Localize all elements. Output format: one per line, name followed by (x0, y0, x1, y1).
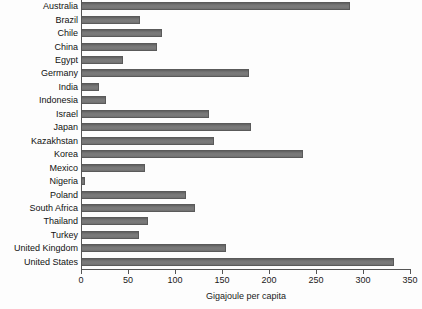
x-tick (175, 270, 176, 274)
bar-row: United States (0, 257, 422, 271)
bar-row: Egypt (0, 55, 422, 69)
category-label: Australia (0, 1, 78, 11)
bar (82, 110, 209, 118)
x-tick-label: 300 (355, 275, 370, 286)
x-tick (316, 270, 317, 274)
bar (82, 123, 251, 131)
bar-row: South Africa (0, 203, 422, 217)
category-label: Kazakhstan (0, 136, 78, 146)
x-tick-label: 150 (214, 275, 229, 286)
category-label: Turkey (0, 230, 78, 240)
category-label: South Africa (0, 203, 78, 213)
bar-row: Poland (0, 190, 422, 204)
bar-row: Israel (0, 109, 422, 123)
bar (82, 217, 148, 225)
category-label: Korea (0, 149, 78, 159)
bar (82, 83, 99, 91)
bar (82, 16, 140, 24)
category-label: United States (0, 257, 78, 267)
bar-row: Australia (0, 1, 422, 15)
category-label: Israel (0, 109, 78, 119)
bar (82, 29, 162, 37)
category-label: Brazil (0, 15, 78, 25)
bar-row: China (0, 42, 422, 56)
bar-row: Indonesia (0, 95, 422, 109)
bar (82, 69, 249, 77)
bar-row: Nigeria (0, 176, 422, 190)
category-label: Indonesia (0, 95, 78, 105)
category-label: Poland (0, 190, 78, 200)
category-label: China (0, 42, 78, 52)
bar (82, 177, 85, 185)
x-tick-label: 350 (402, 275, 417, 286)
bar (82, 137, 214, 145)
bar (82, 191, 186, 199)
x-tick-label: 50 (123, 275, 133, 286)
bar (82, 43, 157, 51)
bar (82, 164, 145, 172)
bar-row: Turkey (0, 230, 422, 244)
bar-row: Mexico (0, 163, 422, 177)
x-tick (222, 270, 223, 274)
category-label: Japan (0, 122, 78, 132)
bar-row: Korea (0, 149, 422, 163)
x-tick-label: 250 (308, 275, 323, 286)
bar-chart: AustraliaBrazilChileChinaEgyptGermanyInd… (0, 0, 422, 309)
bar (82, 2, 350, 10)
x-tick-label: 0 (78, 275, 83, 286)
x-tick (410, 270, 411, 274)
category-label: Egypt (0, 55, 78, 65)
category-label: Nigeria (0, 176, 78, 186)
category-label: Germany (0, 68, 78, 78)
category-label: Thailand (0, 216, 78, 226)
bar-row: Kazakhstan (0, 136, 422, 150)
bar-row: Thailand (0, 216, 422, 230)
x-tick (269, 270, 270, 274)
x-tick (128, 270, 129, 274)
bar (82, 96, 106, 104)
bar (82, 258, 394, 266)
bar-row: United Kingdom (0, 243, 422, 257)
x-tick-label: 100 (167, 275, 182, 286)
bar (82, 150, 303, 158)
category-label: Chile (0, 28, 78, 38)
bar-row: Japan (0, 122, 422, 136)
category-label: United Kingdom (0, 243, 78, 253)
bar-row: Chile (0, 28, 422, 42)
bar-row: Brazil (0, 15, 422, 29)
x-tick-label: 200 (261, 275, 276, 286)
category-label: India (0, 82, 78, 92)
bar (82, 56, 123, 64)
x-tick (81, 270, 82, 274)
bar (82, 231, 139, 239)
bar-row: Germany (0, 68, 422, 82)
bar (82, 244, 226, 252)
bar-row: India (0, 82, 422, 96)
category-label: Mexico (0, 163, 78, 173)
x-tick (363, 270, 364, 274)
x-axis-title: Gigajoule per capita (81, 291, 411, 301)
bar (82, 204, 195, 212)
